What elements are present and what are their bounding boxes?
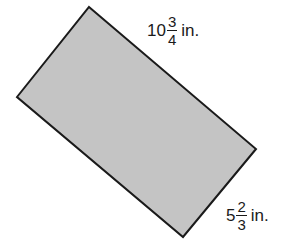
width-numerator: 2 [236, 199, 246, 216]
length-fraction: 3 4 [167, 14, 177, 47]
width-denominator: 3 [237, 216, 245, 232]
length-label: 10 3 4 in. [147, 14, 199, 47]
width-fraction: 2 3 [236, 199, 246, 232]
length-whole: 10 [147, 22, 166, 39]
shaded-rectangle [17, 7, 256, 237]
width-label: 5 2 3 in. [226, 199, 269, 232]
length-unit: in. [181, 22, 199, 39]
length-numerator: 3 [167, 14, 177, 31]
width-whole: 5 [226, 207, 235, 224]
width-unit: in. [251, 207, 269, 224]
length-denominator: 4 [168, 31, 176, 47]
